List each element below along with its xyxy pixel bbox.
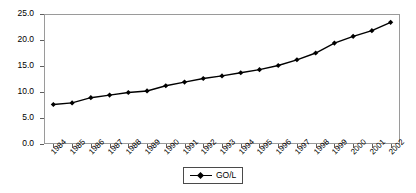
data-point-marker: [126, 90, 131, 95]
data-point-marker: [351, 34, 356, 39]
series-layer: [0, 0, 416, 193]
data-point-marker: [388, 20, 393, 25]
data-point-marker: [238, 70, 243, 75]
y-tick-mark: [40, 92, 44, 93]
legend-marker-icon: [190, 171, 212, 181]
line-chart: 0.05.010.015.020.025.0 GO/L 198419851986…: [0, 0, 416, 193]
legend: GO/L: [183, 167, 243, 184]
data-point-marker: [88, 95, 93, 100]
data-point-marker: [163, 83, 168, 88]
data-point-marker: [70, 100, 75, 105]
data-point-marker: [219, 73, 224, 78]
y-tick-mark: [40, 118, 44, 119]
data-point-marker: [107, 93, 112, 98]
data-point-marker: [332, 41, 337, 46]
y-tick-mark: [40, 144, 44, 145]
data-point-marker: [313, 50, 318, 55]
data-point-marker: [294, 57, 299, 62]
data-point-marker: [51, 102, 56, 107]
y-tick-mark: [40, 66, 44, 67]
data-point-marker: [201, 76, 206, 81]
legend-label: GO/L: [216, 171, 236, 180]
data-point-marker: [144, 88, 149, 93]
data-point-marker: [182, 80, 187, 85]
series-line-go-l: [53, 22, 390, 104]
series-markers-go-l: [51, 20, 393, 107]
data-point-marker: [257, 67, 262, 72]
data-point-marker: [276, 63, 281, 68]
y-tick-mark: [40, 40, 44, 41]
y-tick-mark: [40, 14, 44, 15]
data-point-marker: [369, 28, 374, 33]
